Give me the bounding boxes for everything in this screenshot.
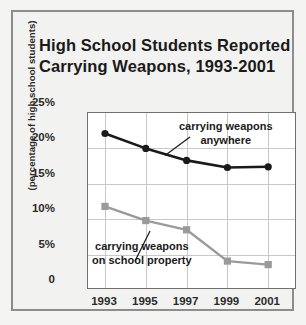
chart-title-line-2: Carrying Weapons, 1993-2001: [39, 56, 301, 77]
annotation-school-line-2: on school property: [92, 254, 192, 266]
chart-title: High School Students Reported Carrying W…: [39, 35, 301, 77]
data-point-school-1995: [142, 217, 149, 224]
y-tick-label-10: 10%: [15, 202, 55, 214]
data-point-school-1997: [183, 226, 190, 233]
data-point-anywhere-1995: [142, 145, 149, 152]
data-point-anywhere-2001: [265, 163, 272, 170]
annotation-anywhere-line-1: carrying weapons: [179, 120, 273, 132]
y-tick-label-0: 0: [15, 273, 55, 285]
annotation-anywhere-line-2: anywhere: [200, 134, 251, 146]
x-tick-label-1995: 1995: [123, 295, 167, 307]
data-point-anywhere-1997: [183, 157, 190, 164]
data-point-school-1993: [101, 203, 108, 210]
chart-figure: High School Students Reported Carrying W…: [0, 0, 306, 325]
y-axis-title: (percentage of high school students): [26, 8, 37, 204]
chart-title-line-1: High School Students Reported: [39, 35, 301, 56]
data-point-school-1999: [224, 258, 231, 265]
data-point-anywhere-1993: [101, 130, 108, 137]
x-tick-label-1999: 1999: [204, 295, 248, 307]
y-tick-label-5: 5%: [15, 238, 55, 250]
data-point-school-2001: [265, 261, 272, 268]
x-tick-label-2001: 2001: [245, 295, 289, 307]
figure-frame: High School Students Reported Carrying W…: [11, 10, 294, 311]
x-tick-label-1993: 1993: [82, 295, 126, 307]
x-tick-label-1997: 1997: [164, 295, 208, 307]
annotation-carrying-weapons-on-school-property: carrying weapons on school property: [92, 240, 192, 267]
data-point-anywhere-1999: [224, 164, 231, 171]
annotation-carrying-weapons-anywhere: carrying weapons anywhere: [179, 120, 273, 147]
annotation-school-line-1: carrying weapons: [95, 240, 189, 252]
